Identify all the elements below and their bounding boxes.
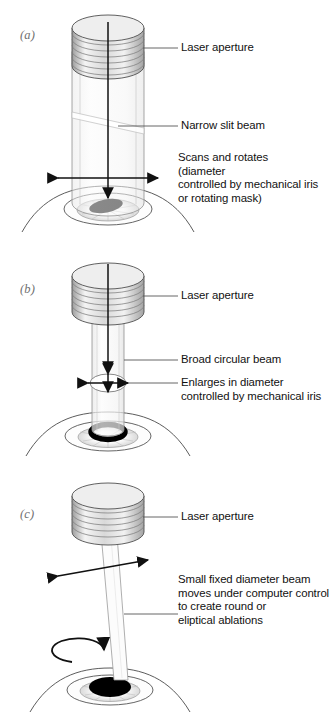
panel-b-graphic <box>0 250 335 472</box>
panel-b-beam-label: Broad circular beam <box>181 353 281 367</box>
panel-a-note: Scans and rotates (diameter controlled b… <box>178 151 318 205</box>
panel-c: (c) <box>0 472 335 728</box>
rotation-arrow <box>52 638 104 662</box>
panel-c-note: Small fixed diameter beam moves under co… <box>178 573 329 627</box>
panel-a-aperture-label: Laser aperture <box>181 41 254 55</box>
panel-b: (b) <box>0 250 335 472</box>
panel-a-graphic <box>0 0 335 250</box>
laser-ablation-diagram: (a) <box>0 0 335 728</box>
panel-c-aperture-label: Laser aperture <box>181 510 254 524</box>
scan-double-arrow <box>58 560 148 576</box>
panel-a-beam-label: Narrow slit beam <box>181 119 265 133</box>
panel-b-aperture-label: Laser aperture <box>181 289 254 303</box>
panel-a: (a) <box>0 0 335 250</box>
panel-b-iris-label: Enlarges in diameter controlled by mecha… <box>181 376 321 403</box>
scanning-beam <box>100 522 128 680</box>
